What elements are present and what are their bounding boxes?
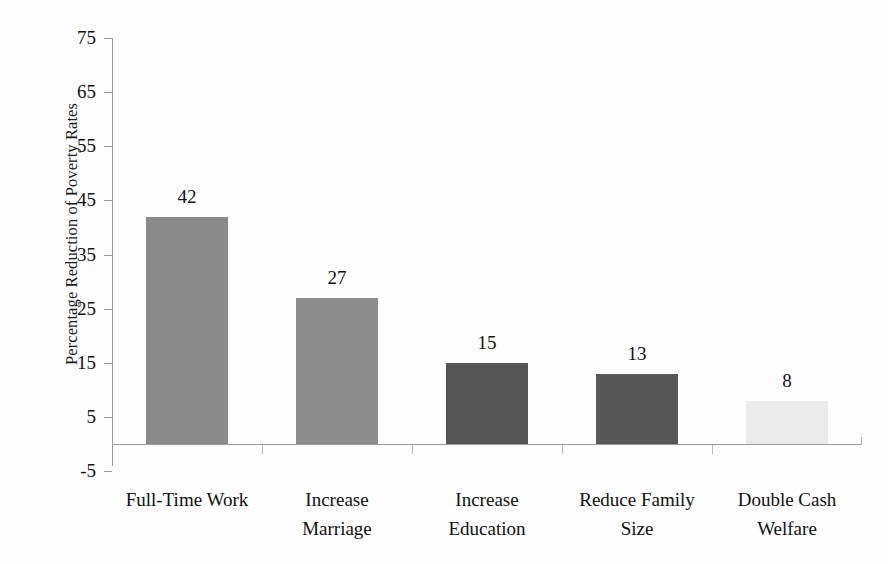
category-label: Double CashWelfare	[702, 485, 872, 543]
y-tick-label: 25	[38, 298, 96, 320]
bar	[746, 401, 828, 444]
bar	[296, 298, 378, 444]
category-label: IncreaseMarriage	[252, 485, 422, 543]
x-tick-mark	[562, 445, 563, 454]
y-tick-mark	[104, 38, 112, 39]
bar	[146, 217, 228, 444]
y-tick-label: 35	[38, 244, 96, 266]
category-label-line: Double Cash	[702, 485, 872, 514]
bar-value-label: 42	[147, 186, 227, 208]
x-tick-mark	[712, 445, 713, 454]
y-tick-mark	[104, 255, 112, 256]
y-tick-label: 55	[38, 135, 96, 157]
x-tick-mark	[262, 445, 263, 454]
bar-chart: Percentage Reduction of Poverty Rates 75…	[0, 0, 888, 564]
category-label-line: Full-Time Work	[102, 485, 272, 514]
x-tick-mark	[412, 445, 413, 454]
category-label-line: Size	[552, 514, 722, 543]
bar	[446, 363, 528, 444]
x-axis-line	[112, 444, 862, 445]
y-tick-mark	[104, 417, 112, 418]
category-label: Full-Time Work	[102, 485, 272, 514]
y-tick-mark	[104, 309, 112, 310]
y-tick-mark	[104, 471, 112, 472]
category-label: IncreaseEducation	[402, 485, 572, 543]
y-tick-mark	[104, 363, 112, 364]
y-axis-line	[112, 38, 113, 466]
y-tick-mark	[104, 200, 112, 201]
category-label-line: Welfare	[702, 514, 872, 543]
bar-value-label: 13	[597, 343, 677, 365]
category-label-line: Marriage	[252, 514, 422, 543]
y-tick-mark	[104, 92, 112, 93]
y-tick-label: 15	[38, 352, 96, 374]
y-tick-label: 5	[38, 406, 96, 428]
y-tick-label: 75	[38, 27, 96, 49]
category-label-line: Reduce Family	[552, 485, 722, 514]
bar	[596, 374, 678, 444]
bar-value-label: 15	[447, 332, 527, 354]
category-label-line: Education	[402, 514, 572, 543]
bar-value-label: 27	[297, 267, 377, 289]
y-tick-label: 65	[38, 81, 96, 103]
bar-value-label: 8	[747, 370, 827, 392]
y-tick-mark	[104, 146, 112, 147]
category-label-line: Increase	[402, 485, 572, 514]
category-label: Reduce FamilySize	[552, 485, 722, 543]
y-tick-label: -5	[38, 460, 96, 482]
category-label-line: Increase	[252, 485, 422, 514]
y-tick-label: 45	[38, 189, 96, 211]
x-axis-end-tick	[861, 437, 862, 445]
